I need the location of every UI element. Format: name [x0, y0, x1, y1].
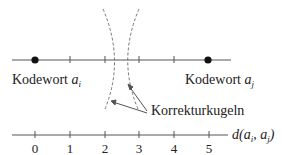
codeword-i-label: Kodewort ai [12, 73, 81, 89]
codeword-j-text: Kodewort [185, 72, 241, 87]
axis-label-func: d( [232, 127, 244, 142]
tick-label-4: 4 [171, 142, 178, 155]
codeword-j-subscript: j [252, 79, 255, 89]
tick-label-2: 2 [102, 142, 109, 155]
tick-label-3: 3 [136, 142, 143, 155]
codeword-i-dot [31, 56, 38, 63]
correction-sphere-right [128, 9, 139, 109]
codeword-j-dot [204, 56, 211, 63]
tick-label-0: 0 [32, 142, 39, 155]
axis-label-close: ) [270, 127, 275, 142]
codeword-j-symbol: a [245, 72, 252, 87]
codeword-j-label: Kodewort aj [185, 73, 254, 89]
tick-label-1: 1 [67, 142, 74, 155]
codeword-i-text: Kodewort [12, 72, 68, 87]
codeword-i-symbol: a [72, 72, 79, 87]
codeword-i-subscript: i [79, 79, 82, 89]
axis-label: d(ai, aj) [232, 128, 274, 144]
correction-spheres-label: Korrekturkugeln [151, 104, 244, 118]
pointer-arrows [111, 84, 147, 113]
tick-label-5: 5 [206, 142, 213, 155]
axis-label-a1: a [244, 127, 251, 142]
